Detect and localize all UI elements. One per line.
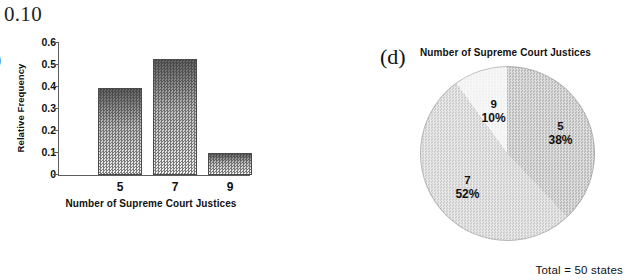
bar-segment <box>153 59 197 175</box>
pie-slice-percent: 10% <box>482 110 506 125</box>
stray-value-text: 0.10 <box>4 2 42 27</box>
bar-panel-label: ) <box>0 46 1 72</box>
pie-total-note: Total = 50 states <box>536 264 623 276</box>
pie-chart-graphic <box>420 66 595 241</box>
pie-slices <box>420 66 595 241</box>
pie-chart-title: Number of Supreme Court Justices <box>420 47 591 58</box>
x-tick-label: 7 <box>172 180 179 194</box>
y-tick-mark <box>53 42 58 43</box>
bar-chart-panel: ) Relative Frequency 0.6 0.5 0.4 0.3 0.2… <box>0 38 270 228</box>
pie-slice-label: 5 38% <box>548 118 572 147</box>
pie-slice-percent: 52% <box>455 186 479 201</box>
pie-slice-category: 7 <box>455 172 479 186</box>
bar-segment <box>208 153 252 175</box>
pie-slice-percent: 38% <box>548 132 572 147</box>
bar-x-axis-title: Number of Supreme Court Justices <box>58 198 244 209</box>
y-tick-mark <box>53 86 58 87</box>
x-tick-label: 9 <box>227 180 234 194</box>
pie-panel-label: (d) <box>380 44 406 70</box>
pie-slice-label: 9 10% <box>482 96 506 125</box>
bar-segment <box>98 88 142 175</box>
y-tick-mark <box>53 152 58 153</box>
y-tick-mark <box>53 174 58 175</box>
x-tick-label: 5 <box>117 180 124 194</box>
y-tick-mark <box>53 108 58 109</box>
pie-slice-category: 5 <box>548 118 572 132</box>
y-tick-mark <box>53 130 58 131</box>
y-tick-mark <box>53 64 58 65</box>
bar-plot-area: 5 7 9 <box>58 42 244 176</box>
pie-slice-label: 7 52% <box>455 172 479 201</box>
y-axis-line <box>58 42 59 176</box>
bar-y-tick-labels: 0.6 0.5 0.4 0.3 0.2 0.1 0 <box>26 42 56 176</box>
pie-chart-panel: (d) Number of Supreme Court Justices 5 3… <box>320 28 627 280</box>
pie-slice-category: 9 <box>482 96 506 110</box>
